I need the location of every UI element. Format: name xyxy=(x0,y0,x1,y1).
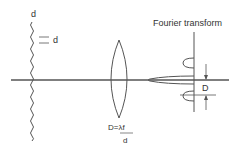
lens-formula-denominator: d xyxy=(123,136,127,145)
arrowhead-up xyxy=(204,95,208,100)
spot-size-label: D xyxy=(202,83,209,93)
arrowhead-down xyxy=(204,75,208,80)
wavy-grating xyxy=(31,22,34,141)
lens xyxy=(111,40,127,118)
lens-formula-numerator: D=λf xyxy=(108,123,125,132)
fourier-optics-diagram: d d D=λf d Fourier transform D xyxy=(0,0,231,148)
fourier-transform-title: Fourier transform xyxy=(153,18,222,28)
spacing-label: d xyxy=(53,35,58,45)
grating-label: d xyxy=(31,9,36,19)
lower-side-lobe xyxy=(183,91,194,101)
upper-side-lobe xyxy=(183,58,194,68)
